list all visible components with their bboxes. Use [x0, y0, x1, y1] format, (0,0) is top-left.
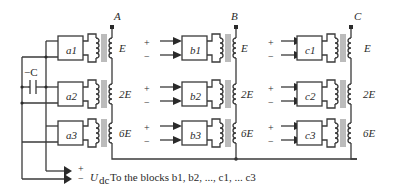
c1-plus: +: [268, 37, 274, 48]
cascaded-inverter-diagram: −C: [0, 0, 394, 193]
dc-bus-wiring: [20, 41, 72, 184]
udc-minus: −: [78, 173, 84, 184]
block-b3: b3: [190, 129, 202, 141]
phase-a-label: A: [113, 10, 121, 22]
udc-symbol: U: [90, 171, 99, 183]
phase-b-label: B: [231, 10, 238, 22]
b3-plus: +: [144, 122, 150, 133]
c3-plus: +: [268, 122, 274, 133]
winding-c-E: E: [363, 42, 371, 54]
block-a1: a1: [66, 44, 77, 56]
block-c2: c2: [305, 90, 316, 102]
b2-minus: −: [144, 97, 150, 108]
block-a3: a3: [66, 129, 78, 141]
winding-a-6E: 6E: [119, 127, 132, 139]
winding-b-6E: 6E: [241, 127, 254, 139]
phase-c-label: C: [354, 10, 362, 22]
c1-minus: −: [268, 51, 274, 62]
c2-plus: +: [268, 83, 274, 94]
block-b1: b1: [190, 44, 201, 56]
winding-b-2E: 2E: [241, 88, 254, 100]
winding-a-E: E: [118, 42, 126, 54]
block-c1: c1: [305, 44, 315, 56]
winding-c-2E: 2E: [363, 88, 376, 100]
block-c3: c3: [305, 129, 316, 141]
b2-plus: +: [144, 83, 150, 94]
b1-plus: +: [144, 37, 150, 48]
udc-subscript: dc: [99, 174, 110, 186]
c2-minus: −: [268, 97, 274, 108]
block-a2: a2: [66, 90, 78, 102]
b3-minus: −: [144, 136, 150, 147]
winding-b-E: E: [240, 42, 248, 54]
phase-c-column: [281, 25, 357, 159]
b1-minus: −: [144, 51, 150, 62]
winding-a-2E: 2E: [119, 88, 132, 100]
capacitor-label: −C: [24, 66, 38, 78]
winding-c-6E: 6E: [363, 127, 376, 139]
block-b2: b2: [190, 90, 202, 102]
udc-caption: To the blocks b1, b2, ..., c1, ... c3: [110, 171, 256, 183]
c3-minus: −: [268, 136, 274, 147]
capacitor-icon: [28, 80, 40, 94]
